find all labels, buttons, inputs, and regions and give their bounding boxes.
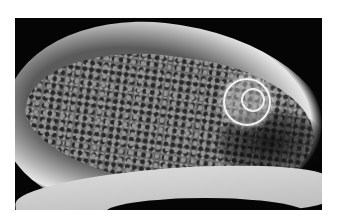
specimen-photo <box>15 18 322 210</box>
lesion-lobe <box>241 88 265 112</box>
